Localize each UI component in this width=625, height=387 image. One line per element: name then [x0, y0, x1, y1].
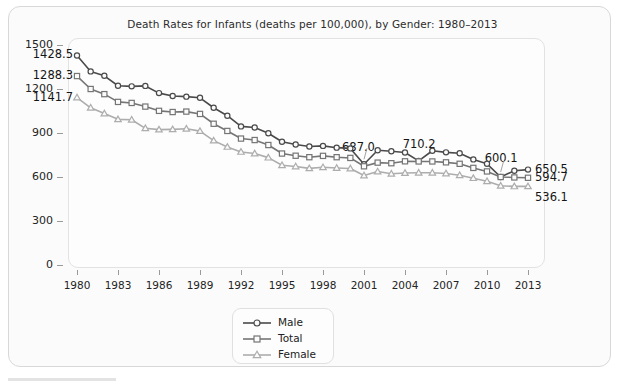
x-tick-label: 1986: [139, 279, 179, 291]
y-tick-mark: [57, 45, 63, 46]
x-tick-mark: [282, 270, 283, 275]
x-tick-mark: [364, 270, 365, 275]
y-tick-label: 900: [11, 126, 53, 139]
x-tick-mark: [200, 270, 201, 275]
x-tick-label: 1980: [57, 279, 97, 291]
data-label: 536.1: [535, 190, 568, 204]
x-tick-mark: [487, 270, 488, 275]
legend-label: Male: [278, 316, 303, 328]
y-tick-mark: [57, 221, 63, 222]
data-label: 600.1: [485, 151, 518, 165]
x-tick-mark: [323, 270, 324, 275]
x-tick-label: 2004: [385, 279, 425, 291]
plot-area-frame: [68, 38, 545, 268]
x-tick-label: 2010: [467, 279, 507, 291]
x-tick-mark: [241, 270, 242, 275]
legend-item-male[interactable]: Male: [242, 314, 333, 330]
bottom-rule: [8, 378, 116, 381]
y-tick-label: 0: [11, 258, 53, 271]
chart-page: Death Rates for Infants (deaths per 100,…: [0, 0, 625, 387]
legend-label: Total: [278, 332, 303, 344]
circle-marker-icon: [242, 315, 272, 329]
y-tick-mark: [57, 177, 63, 178]
data-label: 687.0: [342, 140, 375, 154]
x-tick-mark: [118, 270, 119, 275]
x-tick-mark: [77, 270, 78, 275]
x-tick-mark: [159, 270, 160, 275]
data-label: 1141.7: [19, 90, 73, 104]
x-tick-label: 1989: [180, 279, 220, 291]
triangle-marker-icon: [242, 347, 272, 361]
x-tick-label: 1983: [98, 279, 138, 291]
x-tick-label: 1995: [262, 279, 302, 291]
x-tick-mark: [528, 270, 529, 275]
y-tick-label: 600: [11, 170, 53, 183]
y-tick-label: 300: [11, 214, 53, 227]
data-label: 594.7: [535, 170, 568, 184]
data-label: 710.2: [403, 137, 436, 151]
chart-legend[interactable]: MaleTotalFemale: [232, 308, 334, 364]
x-tick-label: 1992: [221, 279, 261, 291]
legend-label: Female: [278, 348, 316, 360]
y-tick-mark: [57, 133, 63, 134]
x-tick-label: 2001: [344, 279, 384, 291]
y-tick-mark: [57, 265, 63, 266]
legend-item-total[interactable]: Total: [242, 330, 333, 346]
data-label: 1428.5: [19, 47, 73, 61]
legend-item-female[interactable]: Female: [242, 346, 333, 362]
square-marker-icon: [242, 331, 272, 345]
x-tick-label: 1998: [303, 279, 343, 291]
x-tick-mark: [405, 270, 406, 275]
x-tick-label: 2013: [508, 279, 548, 291]
x-tick-mark: [446, 270, 447, 275]
chart-title: Death Rates for Infants (deaths per 100,…: [0, 18, 625, 30]
x-tick-label: 2007: [426, 279, 466, 291]
data-label: 1288.3: [19, 68, 73, 82]
